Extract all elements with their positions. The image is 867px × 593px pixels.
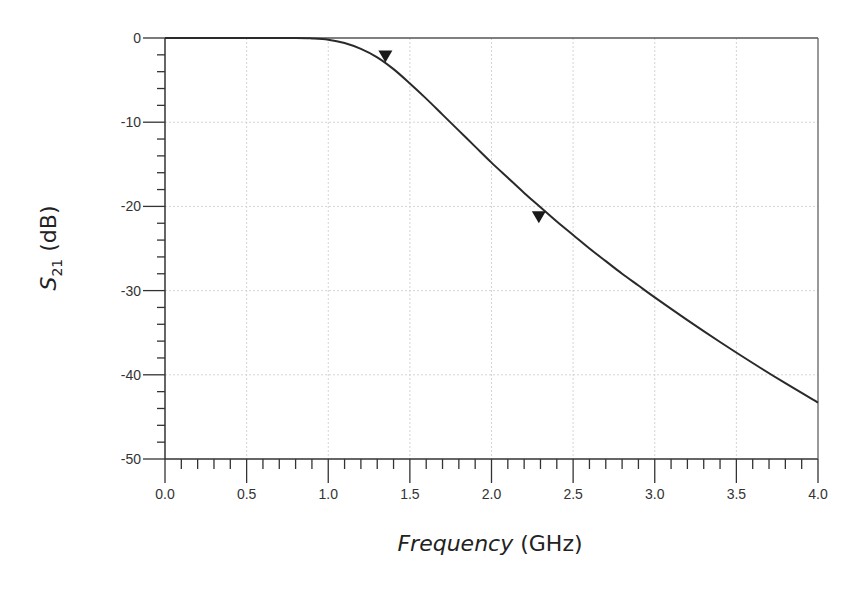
y-tick-label: -10 [121,114,141,130]
tick-marks [143,38,818,483]
x-tick-label: 1.0 [319,486,339,502]
y-tick-labels: 0-10-20-30-40-50 [121,30,141,467]
x-tick-labels: 0.00.51.01.52.02.53.03.54.0 [155,486,828,502]
s21-frequency-chart: 0.00.51.01.52.02.53.03.54.0 0-10-20-30-4… [0,0,867,593]
x-tick-label: 0.5 [237,486,257,502]
x-tick-label: 3.0 [645,486,665,502]
x-tick-label: 2.5 [563,486,583,502]
marker-triangle-icon[interactable] [532,211,546,223]
x-axis-title: Frequency (GHz) [397,531,582,556]
x-tick-label: 4.0 [808,486,828,502]
y-tick-label: -20 [121,198,141,214]
y-tick-label: -40 [121,367,141,383]
x-tick-label: 3.5 [727,486,747,502]
x-tick-label: 0.0 [155,486,175,502]
y-tick-label: -50 [121,451,141,467]
y-tick-label: 0 [133,30,141,46]
y-tick-label: -30 [121,283,141,299]
grid-lines [165,38,818,459]
markers [378,50,545,223]
x-tick-label: 1.5 [400,486,420,502]
x-tick-label: 2.0 [482,486,502,502]
y-axis-title: S21 (dB) [36,205,65,290]
